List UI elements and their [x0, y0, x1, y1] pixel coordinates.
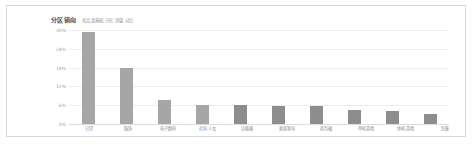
- y-axis: 0%6%12%18%24%30%: [51, 30, 69, 124]
- bar[interactable]: [234, 105, 247, 124]
- x-axis-tick-label: 日常: [69, 125, 109, 131]
- bar-column[interactable]: [145, 30, 183, 124]
- y-axis-tick-label: 6%: [59, 103, 66, 108]
- bar[interactable]: [82, 32, 95, 124]
- plot-area: 0%6%12%18%24%30%: [51, 30, 449, 124]
- bar-column[interactable]: [373, 30, 411, 124]
- x-axis: 日常服饰电子数码社科人文功能箱家居家电商务硬单机游戏体机游戏纺集: [69, 125, 465, 131]
- bar[interactable]: [386, 111, 399, 124]
- x-axis-tick-label: 服饰: [109, 125, 149, 131]
- chart-title-row: 分区销向 各品类基础 分区 销量 对比: [51, 15, 133, 24]
- chart-subtitle: 各品类基础 分区 销量 对比: [82, 17, 133, 23]
- y-axis-tick-label: 18%: [56, 65, 66, 70]
- bar[interactable]: [158, 100, 171, 124]
- y-axis-tick-label: 30%: [56, 28, 66, 33]
- bar-series: [69, 30, 449, 124]
- bar-column[interactable]: [411, 30, 449, 124]
- x-axis-tick-label: 商务硬: [307, 125, 347, 131]
- x-axis-tick-label: 纺集: [425, 125, 465, 131]
- bar[interactable]: [272, 106, 285, 124]
- x-axis-tick-label: 家居家电: [267, 125, 307, 131]
- bar[interactable]: [348, 110, 361, 124]
- x-axis-tick-label: 社科人文: [188, 125, 228, 131]
- x-axis-tick-label: 电子数码: [148, 125, 188, 131]
- bar-column[interactable]: [221, 30, 259, 124]
- bar-column[interactable]: [107, 30, 145, 124]
- bar-column[interactable]: [297, 30, 335, 124]
- bar[interactable]: [310, 106, 323, 124]
- bar[interactable]: [424, 114, 437, 124]
- y-axis-tick-label: 0%: [59, 122, 66, 127]
- bar-column[interactable]: [259, 30, 297, 124]
- chart-card: 分区销向 各品类基础 分区 销量 对比 0%6%12%18%24%30% 日常服…: [6, 5, 466, 137]
- x-axis-tick-label: 单机游戏: [346, 125, 386, 131]
- bar[interactable]: [120, 68, 133, 124]
- x-axis-tick-label: 体机游戏: [386, 125, 426, 131]
- chart-title: 分区销向: [51, 15, 76, 24]
- bar[interactable]: [196, 105, 209, 124]
- x-axis-tick-label: 功能箱: [227, 125, 267, 131]
- bar-column[interactable]: [69, 30, 107, 124]
- y-axis-tick-label: 24%: [56, 46, 66, 51]
- y-axis-tick-label: 12%: [56, 84, 66, 89]
- bar-column[interactable]: [183, 30, 221, 124]
- bar-column[interactable]: [335, 30, 373, 124]
